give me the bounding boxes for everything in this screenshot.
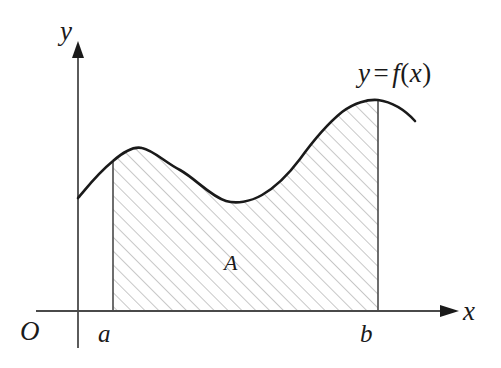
region-hatch-fill: [110, 95, 382, 315]
upper-bound-label: b: [360, 321, 373, 346]
figure-canvas: [0, 0, 501, 368]
shaded-region-A: [110, 95, 382, 315]
area-under-curve-figure: y x O a b A y=f(x): [0, 0, 501, 368]
curve-equation-operator: =: [370, 58, 392, 88]
curve-equation-paren-close: ): [422, 58, 432, 88]
curve-equation-lhs: y: [358, 58, 370, 88]
curve-equation-label: y=f(x): [358, 60, 432, 87]
y-axis-arrow-icon: [72, 41, 84, 58]
curve-equation-paren-open: (: [400, 58, 410, 88]
x-axis-arrow-icon: [440, 305, 459, 317]
y-axis-label: y: [60, 18, 72, 45]
x-axis-label: x: [463, 298, 475, 325]
lower-bound-label: a: [98, 321, 111, 346]
region-area-label: A: [224, 252, 237, 274]
curve-equation-argument: x: [410, 58, 422, 88]
origin-label: O: [20, 318, 40, 345]
